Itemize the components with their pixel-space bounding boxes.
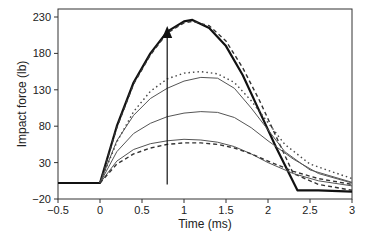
x-tick-label: 1 (181, 204, 187, 216)
x-tick-label: 2 (265, 204, 271, 216)
y-tick-label: 30 (39, 157, 51, 169)
series-measured-3 (100, 112, 352, 183)
series-measured-1 (58, 20, 352, 192)
x-tick-label: 3 (349, 204, 355, 216)
x-tick-label: 1.5 (218, 204, 233, 216)
y-axis-ticks: −203080130180230 (32, 11, 58, 205)
x-axis-ticks: −0.500.511.522.53 (47, 199, 355, 216)
series-measured-2 (100, 77, 352, 183)
increase-arrow (162, 26, 172, 185)
series-measured-4 (100, 139, 352, 186)
x-tick-label: 0.5 (134, 204, 149, 216)
y-tick-label: 80 (39, 120, 51, 132)
y-tick-label: 180 (33, 47, 51, 59)
series-model-4 (100, 143, 352, 185)
impact-force-chart: −203080130180230 −0.500.511.522.53 Time … (0, 0, 372, 245)
y-tick-label: 130 (33, 84, 51, 96)
x-tick-label: 2.5 (302, 204, 317, 216)
x-tick-label: 0 (97, 204, 103, 216)
data-series (58, 20, 352, 192)
x-axis-label: Time (ms) (178, 217, 232, 231)
series-model-2 (100, 72, 352, 183)
y-axis-label: Impact force (lb) (15, 61, 29, 148)
plot-frame (58, 9, 352, 199)
x-tick-label: −0.5 (47, 204, 69, 216)
arrow-head-icon (162, 26, 172, 38)
y-tick-label: 230 (33, 11, 51, 23)
